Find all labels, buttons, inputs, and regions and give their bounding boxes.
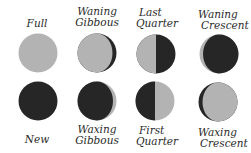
label-first-quarter: First Quarter xyxy=(136,125,186,147)
label-text: Quarter xyxy=(136,18,182,29)
full-moon-icon xyxy=(18,33,58,73)
first-quarter-moon-icon xyxy=(135,81,175,121)
moon-waxing-crescent xyxy=(198,82,238,122)
moon-waxing-gibbous xyxy=(77,81,117,121)
label-text: Gibbous xyxy=(74,17,120,28)
moon-first-quarter xyxy=(135,81,175,121)
moon-last-quarter xyxy=(136,34,176,74)
last-quarter-moon-icon xyxy=(136,34,176,74)
label-text: Quarter xyxy=(136,136,186,147)
label-waxing-crescent: Waxing Crescent xyxy=(196,127,248,149)
label-text: New xyxy=(17,134,57,145)
label-new: New xyxy=(17,134,57,145)
moon-full xyxy=(18,33,58,73)
waning-crescent-moon-icon xyxy=(199,34,239,74)
moon-waning-crescent xyxy=(199,34,239,74)
label-text: Gibbous xyxy=(74,135,120,146)
waning-gibbous-moon-icon xyxy=(77,33,117,73)
waxing-gibbous-moon-icon xyxy=(77,81,117,121)
label-text: Crescent xyxy=(196,20,248,31)
label-text: Full xyxy=(17,18,57,29)
waxing-crescent-moon-icon xyxy=(198,82,238,122)
label-waning-gibbous: Waning Gibbous xyxy=(74,6,120,28)
new-moon-icon xyxy=(18,81,58,121)
label-last-quarter: Last Quarter xyxy=(136,7,182,29)
label-waxing-gibbous: Waxing Gibbous xyxy=(74,124,120,146)
label-text: Crescent xyxy=(196,138,248,149)
label-waning-crescent: Waning Crescent xyxy=(196,9,248,31)
moon-new xyxy=(18,81,58,121)
label-full: Full xyxy=(17,18,57,29)
moon-waning-gibbous xyxy=(77,33,117,73)
